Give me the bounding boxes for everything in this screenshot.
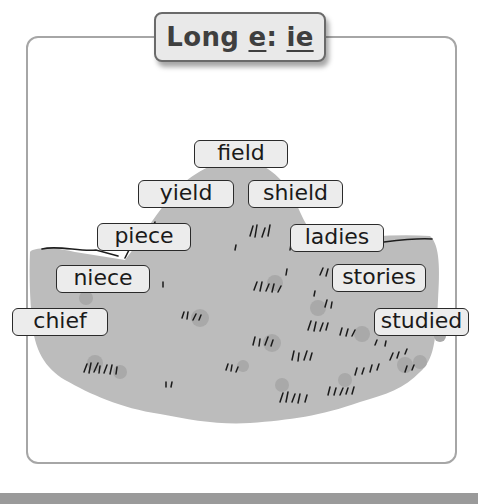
- word-label-niece[interactable]: niece: [56, 265, 150, 293]
- bottom-divider-bar: [0, 493, 478, 504]
- word-label-yield[interactable]: yield: [138, 180, 234, 208]
- word-label-piece[interactable]: piece: [97, 223, 191, 251]
- title-prefix: Long: [166, 22, 248, 52]
- word-label-shield[interactable]: shield: [248, 180, 343, 208]
- word-label-stories[interactable]: stories: [332, 264, 426, 292]
- word-label-studied[interactable]: studied: [374, 308, 469, 336]
- page-title: Long e: ie: [154, 12, 326, 62]
- word-label-field[interactable]: field: [194, 140, 288, 168]
- word-label-ladies[interactable]: ladies: [290, 224, 384, 252]
- word-label-chief[interactable]: chief: [12, 308, 108, 336]
- grassy-hill-illustration: [0, 0, 478, 504]
- title-vowel: e: [248, 22, 266, 52]
- title-spelling: ie: [286, 22, 313, 52]
- title-separator: :: [266, 22, 286, 52]
